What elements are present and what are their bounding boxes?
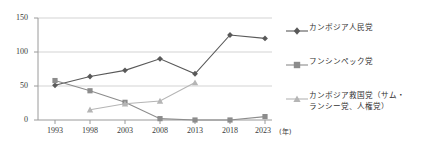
- x-tick-label-2023: 2023: [246, 126, 280, 135]
- y-tick-label-100: 100: [4, 47, 28, 56]
- x-tick-label-2018: 2018: [213, 126, 247, 135]
- x-tick-label-2008: 2008: [143, 126, 177, 135]
- legend-item-funcinpec[interactable]: フンシンペック党: [286, 56, 424, 90]
- series-2: [87, 79, 198, 112]
- line-chart: 150 100 50 0 1993 1998 2003 2008 2013 20…: [0, 0, 424, 148]
- axes: [34, 18, 272, 124]
- legend-item-cpp[interactable]: カンボジア人民党: [286, 22, 424, 56]
- triangle-marker-icon: [286, 91, 308, 103]
- y-tick-label-150: 150: [4, 13, 28, 22]
- x-tick-label-2003: 2003: [108, 126, 142, 135]
- legend-label-cnrp: カンボジア救国党（サム・ ランシー党、人権党）: [308, 90, 405, 112]
- legend-item-cnrp[interactable]: カンボジア救国党（サム・ ランシー党、人権党）: [286, 90, 424, 124]
- diamond-marker-icon: [286, 23, 308, 35]
- x-tick-label-1993: 1993: [38, 126, 72, 135]
- y-tick-label-50: 50: [4, 81, 28, 90]
- x-axis-unit-label: (年): [279, 126, 291, 136]
- x-tick-label-2013: 2013: [178, 126, 212, 135]
- series-0: [52, 32, 268, 88]
- legend: カンボジア人民党 フンシンペック党 カンボジア救国党（サム・ ランシー党、人権党…: [286, 22, 424, 124]
- x-tick-label-1998: 1998: [73, 126, 107, 135]
- square-marker-icon: [286, 57, 308, 69]
- series-layer: [52, 32, 268, 123]
- legend-label-cpp: カンボジア人民党: [308, 22, 373, 33]
- gridlines: [38, 18, 272, 86]
- legend-label-funcinpec: フンシンペック党: [308, 56, 373, 67]
- y-tick-label-0: 0: [4, 115, 28, 124]
